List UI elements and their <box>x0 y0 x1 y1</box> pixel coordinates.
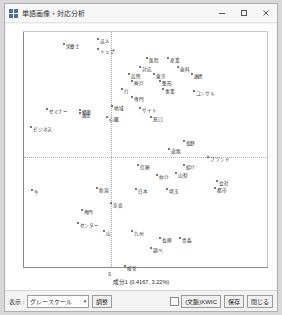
data-point-marker <box>30 126 32 128</box>
data-point-marker <box>179 237 181 239</box>
data-point-marker <box>150 247 152 249</box>
data-point-marker <box>146 57 148 59</box>
chevron-down-icon: ▾ <box>82 298 87 304</box>
data-point-label: 山梨 <box>178 173 188 178</box>
data-point-marker <box>77 222 79 224</box>
kwic-checkbox-group[interactable]: (文脈)KWIC <box>170 295 221 308</box>
title-bar: 単語画像・対応分析 <box>5 4 277 23</box>
data-point-marker <box>131 80 133 82</box>
data-point-label: 長野 <box>186 141 196 146</box>
data-point-label: 長崎 <box>162 238 172 243</box>
data-point-label: セミナー <box>49 109 68 114</box>
data-point-marker <box>131 96 133 98</box>
data-point-marker <box>156 174 158 176</box>
data-point-label: 信頼 <box>140 165 150 170</box>
data-point-marker <box>137 164 139 166</box>
data-point-marker <box>159 237 161 239</box>
data-point-label: サイト <box>142 108 156 113</box>
kwic-checkbox[interactable] <box>170 297 179 306</box>
data-point-label: 神戸 <box>134 81 144 86</box>
data-point-marker <box>97 48 99 50</box>
data-point-marker <box>177 66 179 68</box>
data-point-marker <box>79 112 81 114</box>
data-point-label: 連携 <box>194 74 204 79</box>
data-point-label: 経理 <box>82 110 92 115</box>
data-point-marker <box>110 202 112 204</box>
data-point-label: ビジネス <box>33 127 52 132</box>
application-window: 単語画像・対応分析 成分2 (0.3942, 2.87%) 栄養士法人トップ医院… <box>4 3 278 312</box>
data-point-label: 埼玉 <box>169 189 179 194</box>
data-point-marker <box>96 187 98 189</box>
minimize-button[interactable] <box>211 4 233 22</box>
data-point-marker <box>193 90 195 92</box>
origin-gridline-horizontal <box>24 157 268 158</box>
data-point-marker <box>183 140 185 142</box>
data-point-label: 紹介 <box>186 165 196 170</box>
data-point-marker <box>167 57 169 59</box>
data-point-marker <box>150 116 152 118</box>
maximize-button[interactable] <box>233 4 255 22</box>
data-point-label: 九州 <box>134 231 144 236</box>
data-point-marker <box>124 265 126 267</box>
kwic-button[interactable]: (文脈)KWIC <box>181 295 221 308</box>
data-point-marker <box>103 230 105 232</box>
grid-app-icon <box>9 9 18 18</box>
data-point-marker <box>63 43 65 45</box>
data-point-marker <box>166 188 168 190</box>
data-point-marker <box>111 105 113 107</box>
scatter-plot-canvas[interactable]: 成分2 (0.3942, 2.87%) 栄養士法人トップ医院産業対応歯科近所東京… <box>6 24 276 290</box>
adjust-button[interactable]: 調整 <box>92 295 112 308</box>
data-point-label: 近所 <box>131 74 141 79</box>
data-point-label: 仲介 <box>159 175 169 180</box>
data-point-label: 山 <box>106 231 111 236</box>
display-label: 表示 : <box>9 297 24 306</box>
close-dialog-button[interactable]: 閉じる <box>247 295 273 308</box>
plot-area[interactable]: 栄養士法人トップ医院産業対応歯科近所東京連携神戸整形行事業コンサル専門地域サイト… <box>23 32 268 268</box>
data-point-label: 産業 <box>170 58 180 63</box>
data-point-marker <box>97 38 99 40</box>
data-point-label: 対応 <box>142 67 152 72</box>
bottom-toolbar: 表示 : グレースケール ▾ 調整 (文脈)KWIC 保存 閉じる <box>5 290 277 311</box>
data-point-marker <box>79 109 81 111</box>
data-point-marker <box>183 164 185 166</box>
data-point-marker <box>162 88 164 90</box>
data-point-marker <box>214 187 216 189</box>
data-point-label: 医院 <box>149 58 159 63</box>
window-title: 単語画像・対応分析 <box>22 8 211 18</box>
data-point-marker <box>31 189 33 191</box>
data-point-label: 会社 <box>219 181 229 186</box>
data-point-label: 道路 <box>171 149 181 154</box>
data-point-label: 都市 <box>217 188 227 193</box>
data-point-label: 歯科 <box>180 67 190 72</box>
data-point-marker <box>135 188 137 190</box>
close-button[interactable] <box>255 4 277 22</box>
data-point-marker <box>191 73 193 75</box>
data-point-label: 東京 <box>156 74 166 79</box>
data-point-marker <box>139 66 141 68</box>
data-point-marker <box>106 116 108 118</box>
data-point-label: 地域 <box>114 106 124 111</box>
data-point-label: 牛 <box>34 190 39 195</box>
data-point-marker <box>216 180 218 182</box>
save-button[interactable]: 保存 <box>224 295 244 308</box>
data-point-marker <box>168 148 170 150</box>
data-point-label: 行 <box>124 89 129 94</box>
data-point-label: ブランド <box>210 157 229 162</box>
data-point-label: 事業 <box>165 89 175 94</box>
palette-select-value: グレースケール <box>30 297 72 306</box>
palette-select[interactable]: グレースケール ▾ <box>27 295 89 308</box>
data-point-marker <box>175 172 177 174</box>
data-point-label: 専門 <box>84 210 94 215</box>
data-point-marker <box>128 73 130 75</box>
data-point-label: トップ <box>100 49 114 54</box>
data-point-label: 心臓 <box>109 117 119 122</box>
data-point-label: 栄養士 <box>66 44 80 49</box>
data-point-label: 岐阜 <box>127 266 137 271</box>
data-point-marker <box>131 230 133 232</box>
data-point-label: 新潟 <box>99 188 109 193</box>
data-point-label: 奈良 <box>113 203 123 208</box>
data-point-label: センター <box>80 223 99 228</box>
data-point-label: 専門 <box>134 97 144 102</box>
x-axis-tick-zero: 0 <box>108 271 111 277</box>
data-point-label: 整形 <box>162 81 172 86</box>
